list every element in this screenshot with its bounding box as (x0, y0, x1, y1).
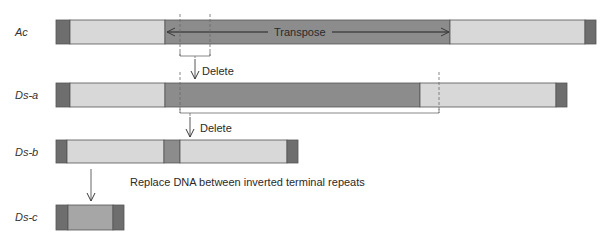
ds-a-left-segment (70, 83, 165, 107)
ds-b-left-terminal-repeat (56, 140, 67, 163)
bracket-1 (180, 52, 210, 58)
ds-c-left-terminal-repeat (56, 205, 68, 230)
ds-a-right-terminal-repeat (556, 83, 567, 107)
ac-element-bar (56, 20, 596, 44)
transpose-label: Transpose (274, 26, 326, 38)
ds-a-middle-segment (165, 83, 420, 107)
ds-b-right-segment (180, 140, 287, 163)
ds-b-right-terminal-repeat (287, 140, 298, 163)
ds-a-left-terminal-repeat (56, 83, 70, 107)
ds-b-left-segment (67, 140, 164, 163)
row-label-ds-b: Ds-b (15, 146, 38, 158)
ac-right-terminal-repeat (585, 20, 596, 44)
ds-a-element-bar (56, 83, 567, 107)
delete-label-1: Delete (202, 65, 234, 77)
bracket-2 (180, 109, 439, 116)
ds-c-middle-segment (68, 205, 113, 230)
transposon-deletion-diagram: Ac Ds-a Ds-b Ds-c Transpose Delete (0, 0, 605, 244)
replace-label: Replace DNA between inverted terminal re… (130, 176, 365, 188)
ac-left-terminal-repeat (56, 20, 70, 44)
ds-b-element-bar (56, 140, 298, 163)
ds-c-right-terminal-repeat (113, 205, 124, 230)
ds-a-right-segment (420, 83, 556, 107)
row-label-ds-a: Ds-a (15, 89, 38, 101)
row-label-ac: Ac (14, 26, 28, 38)
ac-left-segment (70, 20, 165, 44)
row-label-ds-c: Ds-c (15, 211, 38, 223)
ac-right-segment (450, 20, 585, 44)
ds-b-remnant-segment (164, 140, 180, 163)
delete-label-2: Delete (200, 122, 232, 134)
ds-c-element-bar (56, 205, 124, 230)
